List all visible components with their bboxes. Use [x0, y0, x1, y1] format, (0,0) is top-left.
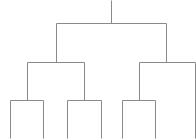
dendrogram	[0, 0, 196, 140]
